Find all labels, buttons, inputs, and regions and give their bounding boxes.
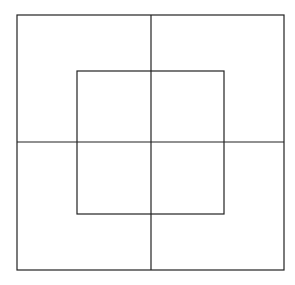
- nested-squares-diagram: [0, 0, 295, 285]
